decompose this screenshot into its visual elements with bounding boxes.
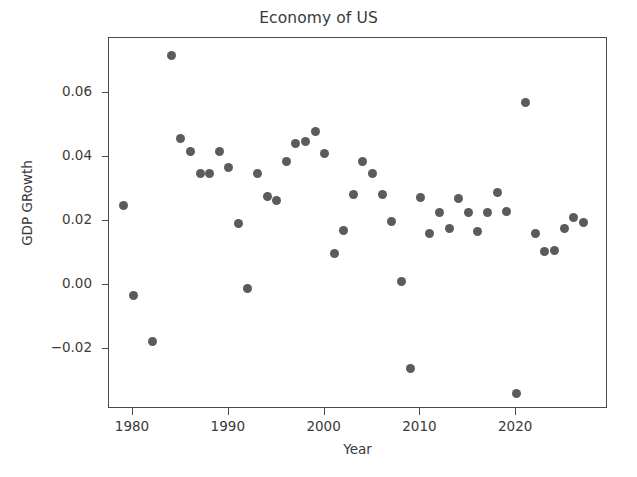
x-tick-mark xyxy=(419,408,420,415)
x-tick-label: 2000 xyxy=(284,418,364,434)
data-point xyxy=(119,201,128,210)
y-tick-mark xyxy=(102,348,109,349)
data-point xyxy=(148,337,157,346)
data-point xyxy=(129,291,138,300)
x-tick-label: 2020 xyxy=(475,418,555,434)
data-point xyxy=(291,139,300,148)
data-point xyxy=(416,193,425,202)
x-tick-mark xyxy=(515,408,516,415)
data-point xyxy=(349,190,358,199)
x-tick-mark xyxy=(132,408,133,415)
data-point xyxy=(282,157,291,166)
x-tick-mark xyxy=(324,408,325,415)
x-axis-label: Year xyxy=(108,441,607,457)
data-point xyxy=(454,194,463,203)
data-point xyxy=(167,51,176,60)
scatter-points-layer xyxy=(109,38,606,407)
data-point xyxy=(358,157,367,166)
x-tick-label: 1980 xyxy=(92,418,172,434)
data-point xyxy=(243,284,252,293)
data-point xyxy=(368,169,377,178)
data-point xyxy=(512,389,521,398)
y-tick-label: 0.00 xyxy=(0,275,92,291)
data-point xyxy=(263,192,272,201)
data-point xyxy=(550,246,559,255)
y-tick-label: 0.06 xyxy=(0,83,92,99)
y-tick-mark xyxy=(102,284,109,285)
y-axis-label: GDP GRowth xyxy=(19,133,35,273)
data-point xyxy=(397,277,406,286)
plot-area xyxy=(108,37,607,408)
data-point xyxy=(378,190,387,199)
data-point xyxy=(502,207,511,216)
data-point xyxy=(272,196,281,205)
data-point xyxy=(320,149,329,158)
data-point xyxy=(531,229,540,238)
data-point xyxy=(521,98,530,107)
data-point xyxy=(406,364,415,373)
data-point xyxy=(330,249,339,258)
data-point xyxy=(301,137,310,146)
y-tick-label: 0.04 xyxy=(0,147,92,163)
data-point xyxy=(464,208,473,217)
y-tick-mark xyxy=(102,156,109,157)
data-point xyxy=(339,226,348,235)
data-point xyxy=(176,134,185,143)
y-tick-mark xyxy=(102,220,109,221)
data-point xyxy=(224,163,233,172)
data-point xyxy=(569,213,578,222)
data-point xyxy=(445,224,454,233)
y-tick-label: 0.02 xyxy=(0,211,92,227)
data-point xyxy=(186,147,195,156)
data-point xyxy=(215,147,224,156)
data-point xyxy=(311,127,320,136)
data-point xyxy=(540,247,549,256)
chart-figure: Economy of US −0.020.000.020.040.06 1980… xyxy=(0,0,637,477)
data-point xyxy=(387,217,396,226)
x-tick-label: 2010 xyxy=(379,418,459,434)
data-point xyxy=(234,219,243,228)
data-point xyxy=(435,208,444,217)
data-point xyxy=(425,229,434,238)
y-tick-mark xyxy=(102,92,109,93)
x-tick-mark xyxy=(228,408,229,415)
data-point xyxy=(493,188,502,197)
data-point xyxy=(473,227,482,236)
data-point xyxy=(579,218,588,227)
x-tick-label: 1990 xyxy=(188,418,268,434)
y-tick-label: −0.02 xyxy=(0,339,92,355)
data-point xyxy=(196,169,205,178)
chart-title: Economy of US xyxy=(0,9,637,27)
data-point xyxy=(483,208,492,217)
data-point xyxy=(253,169,262,178)
data-point xyxy=(560,224,569,233)
data-point xyxy=(205,169,214,178)
